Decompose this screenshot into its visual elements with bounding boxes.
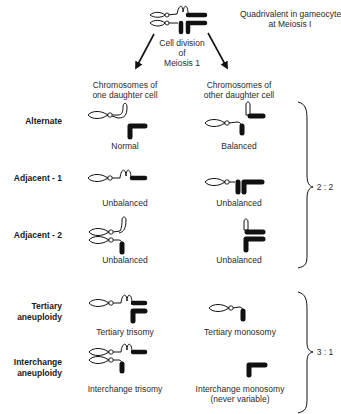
brace-2-2-icon bbox=[298, 102, 313, 268]
division-line-1: Cell division bbox=[150, 38, 214, 48]
row-label-interchange-line-1: Interchange bbox=[0, 357, 62, 368]
row-label-tertiary: Tertiary aneuploidy bbox=[0, 301, 62, 323]
row-label-alternate: Alternate bbox=[0, 116, 62, 127]
ratio-2-2: 2 : 2 bbox=[313, 182, 337, 192]
chromosome-adjacent1-right-icon bbox=[205, 179, 262, 193]
chromosome-interchange-monosomy-icon bbox=[249, 365, 265, 375]
division-line-3: Meiosis 1 bbox=[150, 58, 214, 68]
column-header-right: Chromosomes of other daughter cell bbox=[198, 80, 280, 100]
caption-interchange-trisomy: Interchange trisomy bbox=[78, 384, 172, 394]
caption-interchange-monosomy-line-1: Interchange monosomy bbox=[188, 384, 292, 394]
caption-adjacent2-left: Unbalanced bbox=[85, 255, 165, 265]
title-line-1: Quadrivalent in gameocyte bbox=[240, 9, 340, 19]
column-right-line-1: Chromosomes of bbox=[198, 80, 280, 90]
caption-balanced: Balanced bbox=[198, 141, 280, 151]
chromosome-tertiary-monosomy-icon bbox=[209, 305, 243, 320]
column-right-line-2: other daughter cell bbox=[198, 90, 280, 100]
caption-adjacent1-right: Unbalanced bbox=[198, 198, 280, 208]
caption-tertiary-monosomy: Tertiary monosomy bbox=[192, 327, 288, 337]
column-left-line-2: one daughter cell bbox=[85, 90, 165, 100]
caption-tertiary-trisomy: Tertiary trisomy bbox=[80, 327, 170, 337]
row-label-tertiary-line-1: Tertiary bbox=[0, 301, 62, 312]
row-label-tertiary-line-2: aneuploidy bbox=[0, 312, 62, 323]
chromosome-adjacent2-right-icon bbox=[244, 219, 263, 250]
division-line-2: of bbox=[150, 48, 214, 58]
row-label-adjacent-1: Adjacent - 1 bbox=[0, 173, 62, 184]
caption-adjacent2-right: Unbalanced bbox=[198, 255, 280, 265]
chromosome-adjacent1-left-icon bbox=[88, 170, 145, 181]
row-label-interchange: Interchange aneuploidy bbox=[0, 357, 62, 379]
cell-division-label: Cell division of Meiosis 1 bbox=[150, 38, 214, 68]
chromosome-adjacent2-left-icon bbox=[89, 217, 126, 252]
column-header-left: Chromosomes of one daughter cell bbox=[85, 80, 165, 100]
title-line-2: at Meiosis I bbox=[240, 19, 340, 29]
caption-adjacent1-left: Unbalanced bbox=[85, 198, 165, 208]
caption-normal: Normal bbox=[85, 141, 165, 151]
column-left-line-1: Chromosomes of bbox=[85, 80, 165, 90]
brace-3-1-icon bbox=[298, 292, 313, 413]
caption-interchange-monosomy-line-2: (never variable) bbox=[188, 394, 292, 404]
chromosome-tertiary-trisomy-icon bbox=[89, 295, 145, 321]
quadrivalent-icon bbox=[150, 6, 205, 32]
chromosome-interchange-trisomy-icon bbox=[89, 344, 145, 371]
row-label-adjacent-2: Adjacent - 2 bbox=[0, 230, 62, 241]
chromosome-balanced-icon bbox=[205, 102, 263, 133]
row-label-interchange-line-2: aneuploidy bbox=[0, 368, 62, 379]
caption-interchange-monosomy: Interchange monosomy (never variable) bbox=[188, 384, 292, 404]
ratio-3-1: 3 : 1 bbox=[313, 347, 337, 357]
chromosome-normal-icon bbox=[88, 103, 145, 137]
quadrivalent-title: Quadrivalent in gameocyte at Meiosis I bbox=[240, 9, 340, 29]
